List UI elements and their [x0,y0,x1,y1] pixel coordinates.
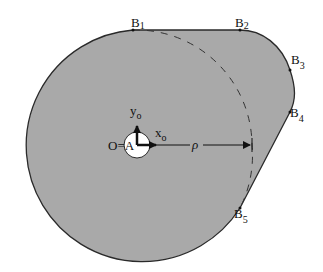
label-b1: B1 [131,15,145,31]
label-b4: B4 [290,105,304,124]
label-origin: O=A [108,138,135,153]
label-radius-rho: ρ [191,137,198,152]
cam-diagram: B1 B2 B3 B4 B5 yo xo O=A ρ [0,0,323,272]
cam-profile-shape [26,30,294,262]
label-b2: B2 [235,15,249,31]
point-b3-marker [289,69,292,72]
label-b5: B5 [234,206,248,225]
label-b3: B3 [291,52,305,71]
